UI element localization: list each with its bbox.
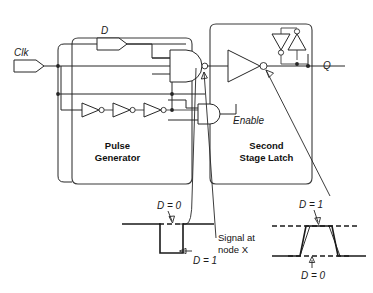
node-x-waveform-high-label: D = 0 [157,200,181,211]
nand-gate-body [170,50,202,82]
inv-chain-junction [170,108,174,112]
q-waveform-low-label: D = 0 [301,270,325,281]
keeper-inverter-left-bubble [278,50,283,55]
pulse-generator-label-line1: Pulse [70,140,165,152]
d-input-pin [97,38,127,50]
and-gate-feedback-wire [220,104,236,114]
keeper-inverter-right-bubble [294,29,299,34]
inverter-3-bubble [161,107,166,112]
nand-gate-bubble [202,63,208,69]
inverter-2-body [113,103,130,117]
pulse-generator-label-line2: Generator [70,152,165,164]
and-input-feed-a [168,100,186,108]
circuit-diagram-figure: Clk D Q Enable Pulse Generator Second St… [0,0,373,293]
second-stage-latch-label-line2: Stage Latch [224,152,309,164]
clk-vertical-bus [58,66,72,182]
inverter-3-body [144,103,161,117]
output-inverter-bubble [260,63,267,70]
q-waveform-leader-arrow [266,70,274,78]
node-x-waveform-trace [122,224,214,253]
q-waveform-fall-slow-edge [329,226,340,256]
q-waveform-leader-line [266,70,330,196]
enable-signal-label: Enable [233,115,264,126]
d-signal-label: D [101,25,108,36]
inverter-1-body [82,103,99,117]
and-gate-body [198,104,220,124]
pulse-generator-label: Pulse Generator [70,140,165,164]
q-waveform-trace [272,226,366,256]
output-inverter-body [228,50,260,82]
circuit-schematic-canvas [0,0,373,293]
keeper-junction [295,62,299,66]
inverter-1-bubble [99,107,104,112]
keeper-inverter-left-body [272,34,290,50]
node-x-waveform-leader [180,68,196,224]
q-signal-label: Q [323,60,331,71]
q-waveform-high-label: D = 1 [299,199,323,210]
node-x-annotation: Signal at node X [218,232,255,257]
second-stage-latch-label: Second Stage Latch [224,140,309,164]
node-x-annotation-line2: node X [218,244,255,256]
keeper-inverter-right-body [288,34,306,50]
clk-signal-label: Clk [14,47,28,58]
clk-junction-top [56,64,60,68]
clk-junction-mid [56,92,60,96]
node-x-annotation-line1: Signal at [218,232,255,244]
d-input-wire [127,44,170,58]
second-stage-latch-label-line1: Second [224,140,309,152]
clk-input-pin [14,60,44,72]
inverter-2-bubble [130,107,135,112]
inv-feed-junction [170,92,174,96]
node-x-waveform-low-label: D = 1 [193,255,217,266]
